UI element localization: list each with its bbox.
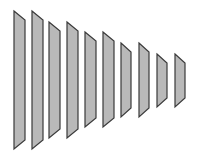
bars-diagram: [0, 0, 198, 161]
bar-shape-10: [175, 54, 185, 107]
bar-shape-9: [157, 54, 167, 107]
bar-shape-8: [139, 43, 149, 117]
bar-shape-3: [49, 22, 60, 138]
bar-shape-7: [121, 43, 131, 117]
bar-shape-6: [103, 32, 114, 127]
bar-shape-4: [67, 22, 78, 138]
bar-shape-2: [32, 11, 43, 149]
bar-shape-1: [14, 11, 25, 149]
bar-shape-5: [85, 32, 96, 127]
